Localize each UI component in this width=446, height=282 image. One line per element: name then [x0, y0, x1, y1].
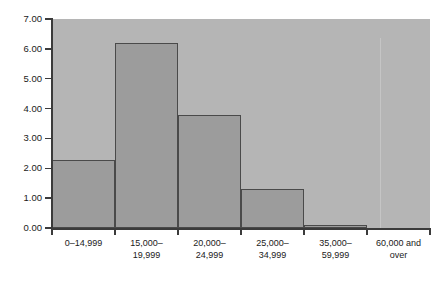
x-axis-tick-label: 0–14,999 — [52, 238, 115, 250]
y-axis-tick — [45, 48, 51, 50]
histogram-bar — [115, 43, 178, 228]
y-axis-tick — [45, 138, 51, 140]
y-axis-tick — [45, 227, 51, 229]
y-axis-tick — [45, 197, 51, 199]
y-axis-line — [51, 18, 53, 229]
x-axis-tick — [429, 229, 431, 235]
x-axis-tick-label: 25,000– 34,999 — [241, 238, 304, 261]
x-axis-tick — [240, 229, 242, 235]
histogram-bar — [178, 115, 241, 228]
x-axis-tick — [177, 229, 179, 235]
x-axis-tick-label: 35,000– 59,999 — [304, 238, 367, 261]
y-axis-tick — [45, 168, 51, 170]
histogram-bar — [241, 189, 304, 228]
x-axis-tick-label: 15,000– 19,999 — [115, 238, 178, 261]
y-axis-tick-label: 1.00 — [0, 193, 42, 203]
y-axis-tick — [45, 78, 51, 80]
y-axis-tick-label: 6.00 — [0, 44, 42, 54]
y-axis-tick — [45, 18, 51, 20]
histogram-figure: Percent per $1,000 0.001.002.003.004.005… — [0, 0, 446, 282]
y-axis-tick-label: 4.00 — [0, 104, 42, 114]
y-axis-tick-label: 7.00 — [0, 14, 42, 24]
x-axis-tick — [303, 229, 305, 235]
scan-artifact-line — [380, 38, 381, 247]
y-axis-tick-label: 3.00 — [0, 133, 42, 143]
y-axis-tick-label: 5.00 — [0, 74, 42, 84]
plot-area — [52, 19, 430, 228]
y-axis-tick-label: 0.00 — [0, 223, 42, 233]
x-axis-tick — [51, 229, 53, 235]
histogram-bar — [52, 160, 115, 228]
x-axis-tick-label: 20,000– 24,999 — [178, 238, 241, 261]
y-axis-tick-label: 2.00 — [0, 163, 42, 173]
x-axis-tick — [366, 229, 368, 235]
x-axis-tick-label: 60,000 and over — [367, 238, 430, 261]
x-axis-tick — [114, 229, 116, 235]
y-axis-tick — [45, 108, 51, 110]
